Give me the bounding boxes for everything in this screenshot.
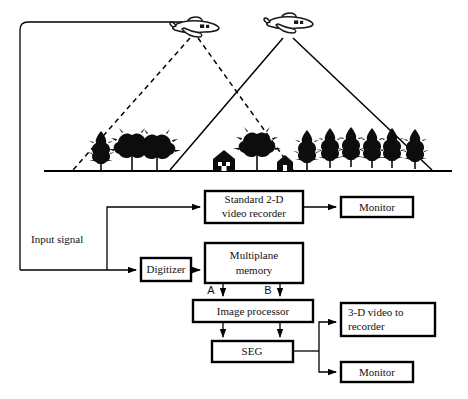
- right-aircraft: [264, 13, 313, 33]
- seg-to-monitor-arrow: [319, 351, 336, 372]
- multiplane-memory-label-line2: memory: [236, 264, 273, 276]
- figure-container: Input signal Standard 2-D video recorder…: [0, 0, 468, 399]
- tree-center: [233, 127, 281, 170]
- monitor-top-label: Monitor: [359, 201, 395, 213]
- port-b-label: B: [264, 284, 271, 296]
- image-processor-label: Image processor: [217, 305, 290, 317]
- left-aircraft: [170, 17, 219, 37]
- 3d-video-recorder-label-line2: recorder: [348, 320, 385, 332]
- port-a-label: A: [207, 284, 215, 296]
- seg-label: SEG: [242, 345, 263, 357]
- input-signal-label: Input signal: [31, 233, 83, 245]
- diagram-canvas: Input signal Standard 2-D video recorder…: [0, 0, 468, 399]
- standard-2d-video-recorder-label-line1: Standard 2-D: [225, 193, 284, 205]
- seg-to-3d-recorder-arrow: [319, 322, 336, 351]
- 3d-video-recorder-label-line1: 3-D video to: [348, 306, 404, 318]
- monitor-bottom-label: Monitor: [359, 366, 395, 378]
- tree-group-left: [87, 128, 181, 172]
- tree-group-right: [293, 127, 429, 170]
- standard-2d-video-recorder-label-line2: video recorder: [222, 207, 286, 219]
- multiplane-memory-label-line1: Multiplane: [230, 249, 278, 261]
- digitizer-label: Digitizer: [146, 263, 185, 275]
